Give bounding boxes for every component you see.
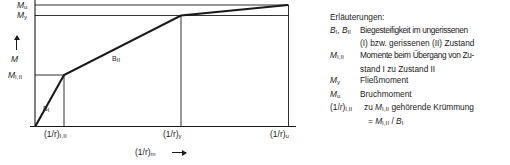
legend-symbol-mi-ii: MI,II — [330, 50, 360, 64]
moment-curvature-curve — [36, 5, 289, 126]
legend-text-curvature-line2: = MI,II / BI — [368, 116, 510, 130]
legend-row-stiffness: BI, BII Biegesteifigkeit im ungerissenen — [330, 25, 510, 39]
legend-text-stiffness-line1: Biegesteifigkeit im ungerissenen — [360, 25, 510, 37]
moment-curvature-chart: Mu My MI,II M BI BII (1/r)I,II (1/r)y (1… — [0, 0, 300, 165]
legend-text-stiffness-line2: (I) bzw. gerissenen (II) Zustand — [360, 38, 510, 50]
legend-title: Erläuterungen: — [330, 12, 510, 24]
y-tick-label-mu: Mu — [17, 1, 28, 10]
legend-row-ultimate-moment: Mu Bruchmoment — [330, 89, 510, 103]
curve-segment-label-bi: BI — [43, 105, 49, 113]
legend-symbol-mu: Mu — [330, 89, 360, 103]
legend-text-transition-line2: stand I zu Zustand II — [360, 64, 510, 76]
legend-text-yield-moment: Fließmoment — [360, 75, 510, 87]
legend-text-curvature-line1: zu MI,II gehörende Krümmung — [364, 102, 510, 116]
y-axis-title: M — [11, 55, 18, 64]
x-axis-arrow-icon — [172, 152, 186, 153]
legend-panel: Erläuterungen: BI, BII Biegesteifigkeit … — [330, 12, 510, 130]
y-tick-label-mi-ii: MI,II — [8, 71, 22, 80]
legend-row-curvature: (1/r)I,II zu MI,II gehörende Krümmung — [330, 102, 510, 116]
y-tick-label-my: My — [17, 11, 27, 20]
curve-segment-label-bii: BII — [112, 55, 120, 63]
figure-root: Mu My MI,II M BI BII (1/r)I,II (1/r)y (1… — [0, 0, 510, 165]
y-axis-arrow-icon — [16, 36, 17, 50]
legend-symbol-my: My — [330, 75, 360, 89]
legend-row-transition-moment: MI,II Momente beim Übergang von Zu- — [330, 50, 510, 64]
x-tick-label-i-ii: (1/r)I,II — [44, 130, 67, 139]
chart-canvas — [0, 0, 300, 165]
x-tick-label-y: (1/r)y — [163, 130, 182, 139]
x-tick-label-u: (1/r)u — [270, 130, 289, 139]
legend-text-transition-line1: Momente beim Übergang von Zu- — [360, 50, 510, 62]
legend-row-yield-moment: My Fließmoment — [330, 75, 510, 89]
legend-symbol-curvature-i-ii: (1/r)I,II — [330, 102, 364, 116]
legend-symbol-bi-bii: BI, BII — [330, 25, 360, 39]
legend-text-ultimate-moment: Bruchmoment — [360, 89, 510, 101]
x-axis-title: (1/r)m — [135, 148, 156, 157]
